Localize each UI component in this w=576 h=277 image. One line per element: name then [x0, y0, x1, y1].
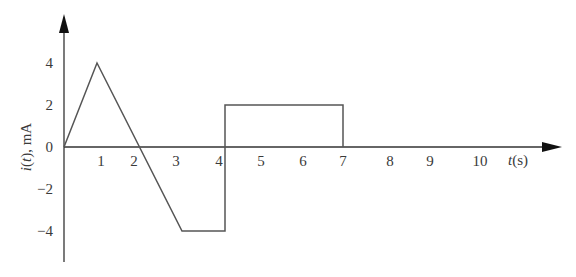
y-tick-label: 2 [46, 97, 54, 113]
x-tick-label: 5 [257, 153, 265, 169]
y-tick-label: 0 [46, 139, 54, 155]
x-tick-labels: 12345678910 [97, 153, 487, 169]
y-tick-labels: 420−2−4 [37, 55, 53, 239]
y-tick-label: 4 [46, 55, 54, 71]
x-tick-label: 2 [130, 153, 138, 169]
x-tick-label: 6 [299, 153, 307, 169]
x-tick-label: 4 [215, 153, 223, 169]
x-axis-arrow-icon [542, 142, 562, 152]
x-tick-label: 1 [97, 153, 105, 169]
y-tick-label: −2 [37, 181, 53, 197]
x-tick-label: 7 [339, 153, 347, 169]
current-waveform-chart: 420−2−4 12345678910 t(s) i(t), mA [0, 0, 576, 277]
x-tick-label: 8 [386, 153, 394, 169]
x-tick-label: 10 [473, 153, 488, 169]
x-tick-label: 9 [426, 153, 434, 169]
y-axis-arrow-icon [59, 14, 69, 33]
x-axis-label: t(s) [508, 152, 528, 169]
y-axis-label: i(t), mA [18, 123, 35, 172]
x-tick-label: 3 [172, 153, 180, 169]
y-tick-label: −4 [37, 223, 53, 239]
